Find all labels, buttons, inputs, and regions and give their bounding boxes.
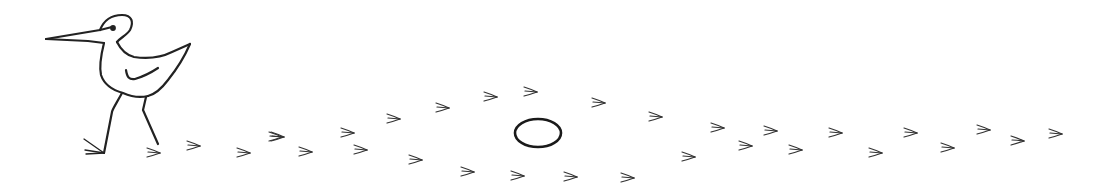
bird-tracks-illustration xyxy=(0,0,1100,194)
footprint-icon xyxy=(711,123,724,132)
footprint-icon xyxy=(592,98,605,107)
footprint-icon xyxy=(409,155,422,164)
footprint-icon xyxy=(436,103,449,112)
footprint-icon xyxy=(484,92,497,101)
footprint-icon xyxy=(1011,136,1024,145)
footprint-icon xyxy=(977,125,990,134)
footprint-icon xyxy=(511,171,524,180)
footprint-icon xyxy=(789,145,802,154)
footprint-icon xyxy=(829,128,842,137)
footprint-icon xyxy=(739,141,752,150)
footprint-icon xyxy=(524,87,537,96)
circle-marker xyxy=(515,119,561,147)
footprint-icon xyxy=(341,128,354,137)
footprint-icon xyxy=(354,145,367,154)
footprint-icon xyxy=(147,148,160,157)
bird-drawing xyxy=(46,15,190,154)
footprint-icon xyxy=(1049,129,1062,138)
footprint-icon xyxy=(187,141,200,150)
footprint-icon xyxy=(621,173,634,182)
footprint-tracks xyxy=(147,87,1062,182)
footprint-icon xyxy=(461,167,474,176)
footprint-icon xyxy=(237,148,250,157)
footprint-icon xyxy=(764,126,777,135)
footprint-icon xyxy=(564,172,577,181)
footprint-icon xyxy=(682,152,695,161)
footprint-icon xyxy=(299,147,312,156)
footprint-icon xyxy=(904,128,917,137)
footprint-icon xyxy=(649,112,662,121)
footprint-icon xyxy=(941,143,954,152)
footprint-icon xyxy=(387,114,400,123)
footprint-icon xyxy=(869,148,882,157)
bird-eye xyxy=(111,26,115,30)
